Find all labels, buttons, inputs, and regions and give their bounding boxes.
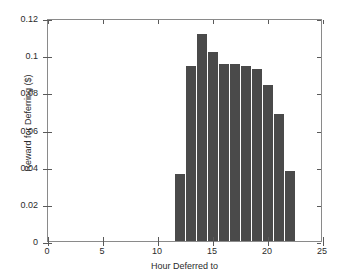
y-tick-mark-right [317, 132, 321, 133]
y-tick-mark-inner [48, 132, 52, 133]
x-tick-label: 10 [152, 247, 162, 256]
x-tick-mark-top [213, 20, 214, 24]
x-tick-mark-top [323, 20, 324, 24]
x-axis-tick-labels: 0510152025 [47, 247, 322, 259]
x-tick-label: 25 [317, 247, 327, 256]
y-tick-label: 0 [33, 238, 38, 247]
x-tick-label: 15 [207, 247, 217, 256]
x-tick-mark-inner [323, 237, 324, 241]
x-tick-mark-inner [213, 237, 214, 241]
bar [175, 174, 184, 241]
bar-series [48, 20, 321, 241]
plot-area [47, 19, 322, 242]
y-tick-mark-inner [48, 206, 52, 207]
x-tick-mark-top [268, 20, 269, 24]
bar [241, 66, 250, 241]
bar [230, 64, 239, 241]
x-tick-mark-inner [158, 237, 159, 241]
bar [197, 34, 206, 241]
y-axis-title: Reward for Deferring ($) [23, 43, 33, 203]
y-tick-mark-inner [48, 169, 52, 170]
bar [252, 69, 261, 241]
x-axis-title: Hour Deferred to [47, 261, 322, 271]
bar [219, 64, 228, 241]
x-tick-mark-top [158, 20, 159, 24]
y-axis-tick-labels: 00.020.040.060.080.10.12 [0, 19, 43, 242]
y-tick-mark-right [317, 57, 321, 58]
y-tick-mark-inner [48, 57, 52, 58]
y-tick-mark-inner [48, 94, 52, 95]
y-tick-mark-right [317, 243, 321, 244]
x-tick-mark-top [48, 20, 49, 24]
x-tick-label: 5 [99, 247, 104, 256]
x-tick-label: 0 [44, 247, 49, 256]
x-tick-mark-inner [48, 237, 49, 241]
y-tick-mark-right [317, 94, 321, 95]
x-tick-mark-top [103, 20, 104, 24]
y-tick-mark-right [317, 20, 321, 21]
bar [285, 171, 294, 241]
bar [208, 52, 217, 241]
x-tick-mark-inner [268, 237, 269, 241]
y-tick-mark-right [317, 206, 321, 207]
chart-figure: 00.020.040.060.080.10.12 0510152025 Hour… [0, 0, 346, 278]
x-tick-label: 20 [262, 247, 272, 256]
bar [186, 66, 195, 241]
bar [274, 114, 283, 241]
x-tick-mark-inner [103, 237, 104, 241]
y-tick-label: 0.12 [20, 15, 38, 24]
bar [263, 85, 272, 241]
y-tick-mark-right [317, 169, 321, 170]
